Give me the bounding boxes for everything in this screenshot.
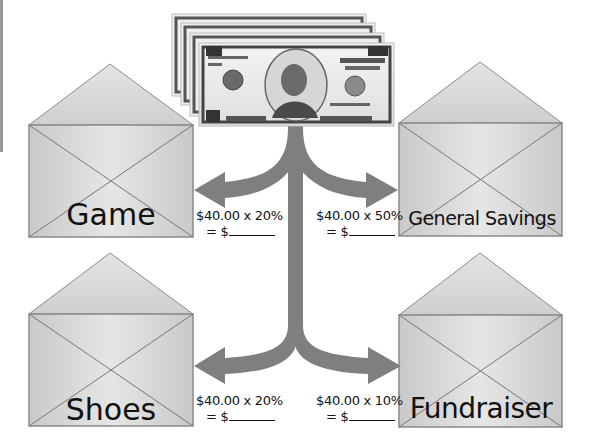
envelope-label-game: Game xyxy=(66,197,155,232)
calc-fundraiser-formula: $40.00 x 10% xyxy=(316,393,403,408)
calc-fundraiser: $40.00 x 10% = $ xyxy=(316,393,403,425)
bill-front xyxy=(199,43,394,126)
answer-blank-game[interactable] xyxy=(229,224,275,236)
envelope-label-fundraiser: Fundraiser xyxy=(410,392,553,425)
answer-blank-fundraiser[interactable] xyxy=(349,409,395,421)
calc-game: $40.00 x 20% = $ xyxy=(196,208,283,240)
envelope-label-shoes: Shoes xyxy=(66,392,157,427)
arrow-to-shoes xyxy=(194,325,297,384)
answer-blank-general-savings[interactable] xyxy=(349,224,395,236)
answer-blank-shoes[interactable] xyxy=(229,409,275,421)
calc-shoes: $40.00 x 20% = $ xyxy=(196,393,283,425)
arrow-to-fundraiser xyxy=(294,325,401,384)
calc-shoes-formula: $40.00 x 20% xyxy=(196,393,283,408)
calc-general-savings-formula: $40.00 x 50% xyxy=(316,208,403,223)
calc-game-formula: $40.00 x 20% xyxy=(196,208,283,223)
money-stack xyxy=(172,14,394,126)
arrow-to-game xyxy=(194,128,303,208)
calc-general-savings: $40.00 x 50% = $ xyxy=(316,208,403,240)
calc-game-answer: = $ xyxy=(196,224,283,240)
calc-fundraiser-answer: = $ xyxy=(316,409,403,425)
envelope-label-general-savings: General Savings xyxy=(408,207,556,229)
calc-general-savings-answer: = $ xyxy=(316,224,403,240)
arrow-to-general-savings xyxy=(288,128,398,208)
calc-shoes-answer: = $ xyxy=(196,409,283,425)
